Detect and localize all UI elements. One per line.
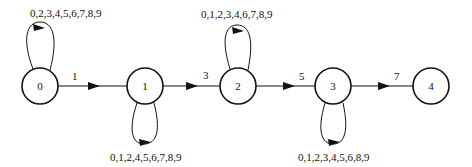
node-label-2: 2 (235, 80, 241, 92)
arrow-head-icon (232, 27, 244, 34)
edge-label-0-1: 1 (72, 70, 78, 82)
arrow-head-icon (328, 139, 340, 146)
arrow-head-icon (33, 24, 45, 31)
node-2: 2 (220, 68, 256, 104)
node-4: 4 (413, 68, 449, 104)
self-loop-node-0: 0,2,3,4,5,6,7,8,9 (27, 7, 102, 70)
edge-3-to-4: 7 (351, 70, 413, 90)
edge-1-to-2: 3 (163, 69, 220, 90)
node-0: 0 (22, 68, 58, 104)
self-loop-node-2: 0,1,2,3,4,6,7,8,9 (201, 8, 273, 70)
node-label-3: 3 (330, 80, 336, 92)
node-1: 1 (127, 68, 163, 104)
loop-label-node-3: 0,1,2,3,4,5,6,8,9 (298, 151, 370, 163)
state-diagram: 0,2,3,4,5,6,7,8,9 0,1,2,4,5,6,7,8,9 0,1,… (0, 0, 472, 167)
node-3: 3 (315, 68, 351, 104)
loop-label-node-0: 0,2,3,4,5,6,7,8,9 (30, 7, 102, 19)
self-loop-node-3: 0,1,2,3,4,5,6,8,9 (298, 103, 370, 163)
loop-label-node-1: 0,1,2,4,5,6,7,8,9 (110, 151, 182, 163)
arrow-head-icon (139, 139, 151, 146)
arrow-head-icon (283, 82, 295, 90)
loop-label-node-2: 0,1,2,3,4,6,7,8,9 (201, 8, 273, 20)
arrow-head-icon (186, 82, 198, 90)
node-label-4: 4 (428, 80, 434, 92)
node-label-0: 0 (37, 80, 43, 92)
self-loop-node-1: 0,1,2,4,5,6,7,8,9 (110, 103, 182, 163)
arrow-head-icon (88, 82, 100, 90)
edge-2-to-3: 5 (256, 70, 315, 90)
edge-label-3-4: 7 (394, 70, 400, 82)
arrow-head-icon (378, 82, 390, 90)
edge-0-to-1: 1 (58, 70, 127, 90)
edge-label-2-3: 5 (299, 70, 305, 82)
edge-label-1-2: 3 (203, 69, 209, 81)
node-label-1: 1 (142, 80, 148, 92)
